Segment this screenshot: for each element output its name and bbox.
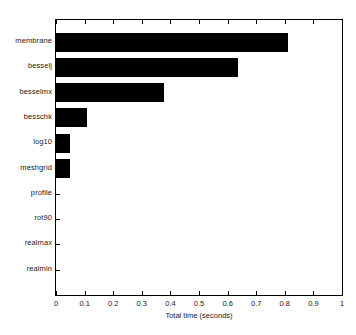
bar-realmax	[56, 235, 342, 254]
x-axis-tick-top	[170, 20, 171, 24]
bar-fill	[56, 33, 288, 52]
y-axis-tick-label: realmin	[0, 264, 52, 273]
bar-meshgrid	[56, 159, 342, 178]
y-axis-tick	[56, 169, 60, 170]
x-axis-tick	[342, 291, 343, 295]
y-axis-tick	[56, 194, 60, 195]
bar-fill	[56, 108, 87, 127]
x-axis-tick	[228, 291, 229, 295]
y-axis-tick-label: rot90	[0, 213, 52, 222]
x-axis-tick-top	[142, 20, 143, 24]
x-axis-tick	[142, 291, 143, 295]
x-axis-tick	[313, 291, 314, 295]
bar-besschk	[56, 108, 342, 127]
x-axis-tick-top	[113, 20, 114, 24]
x-axis-tick-top	[313, 20, 314, 24]
x-axis-tick-label: 0.2	[101, 299, 125, 308]
x-axis-tick	[85, 291, 86, 295]
bar-rot90	[56, 210, 342, 229]
plot-area	[55, 19, 343, 296]
x-axis-tick-top	[85, 20, 86, 24]
x-axis-tick	[113, 291, 114, 295]
y-axis-tick	[56, 42, 60, 43]
x-axis-tick-top	[228, 20, 229, 24]
y-axis-tick-label: log10	[0, 137, 52, 146]
bar-fill	[56, 58, 238, 77]
x-axis-tick-label: 0.4	[158, 299, 182, 308]
bar-membrane	[56, 33, 342, 52]
x-axis-tick	[56, 291, 57, 295]
x-axis-tick-label: 1	[330, 299, 354, 308]
bar-profile	[56, 184, 342, 203]
x-axis-tick-label: 0.6	[216, 299, 240, 308]
y-axis-tick	[56, 244, 60, 245]
y-axis-tick-label: besselj	[0, 61, 52, 70]
x-axis-tick-top	[256, 20, 257, 24]
y-axis-tick-label: meshgrid	[0, 163, 52, 172]
y-axis-tick	[56, 93, 60, 94]
y-axis-tick	[56, 118, 60, 119]
x-axis-tick-label: 0.8	[273, 299, 297, 308]
bar-log10	[56, 134, 342, 153]
bar-fill	[56, 83, 164, 102]
y-axis-tick-labels: membranebesseljbesselmxbesschklog10meshg…	[0, 19, 52, 296]
y-axis-tick-label: profile	[0, 188, 52, 197]
x-axis-tick	[170, 291, 171, 295]
x-axis-tick-label: 0.1	[73, 299, 97, 308]
x-axis-tick-top	[342, 20, 343, 24]
x-axis-title: Total time (seconds)	[55, 311, 343, 321]
x-axis-tick	[256, 291, 257, 295]
x-axis-tick-label: 0	[44, 299, 68, 308]
y-axis-tick	[56, 219, 60, 220]
y-axis-tick-label: besselmx	[0, 87, 52, 96]
x-axis-tick-label: 0.3	[130, 299, 154, 308]
x-axis-tick-top	[56, 20, 57, 24]
y-axis-tick-label: besschk	[0, 112, 52, 121]
x-axis-tick	[285, 291, 286, 295]
bar-besselj	[56, 58, 342, 77]
x-axis-tick	[199, 291, 200, 295]
x-axis-tick-top	[285, 20, 286, 24]
figure: membranebesseljbesselmxbesschklog10meshg…	[0, 0, 356, 335]
y-axis-tick	[56, 67, 60, 68]
y-axis-tick-label: realmax	[0, 238, 52, 247]
x-axis-tick-label: 0.5	[187, 299, 211, 308]
bar-besselmx	[56, 83, 342, 102]
x-axis-tick-top	[199, 20, 200, 24]
y-axis-tick-label: membrane	[0, 36, 52, 45]
x-axis-tick-label: 0.9	[301, 299, 325, 308]
y-axis-tick	[56, 270, 60, 271]
bar-realmin	[56, 260, 342, 279]
x-axis-tick-label: 0.7	[244, 299, 268, 308]
y-axis-tick	[56, 143, 60, 144]
